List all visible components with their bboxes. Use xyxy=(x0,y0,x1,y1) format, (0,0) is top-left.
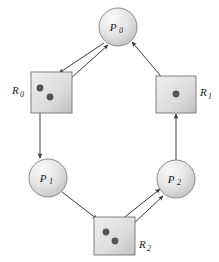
resource-node-r2[interactable]: R 2 xyxy=(94,217,151,255)
process-label-p1-sub: 1 xyxy=(49,177,53,186)
resource-label-r0-sub: 0 xyxy=(20,90,24,99)
resource-instance-dot xyxy=(37,85,44,92)
process-circle-p2 xyxy=(157,160,195,198)
process-circle-p0 xyxy=(99,8,137,46)
process-label-p2: P xyxy=(167,173,175,185)
edge-p1-to-r2 xyxy=(62,192,97,219)
resource-label-r2-sub: 2 xyxy=(147,244,151,253)
diagram-canvas: R 0 R 1 R 2 P 0 xyxy=(0,0,219,262)
resource-label-r0: R xyxy=(11,84,19,96)
resource-instance-dot xyxy=(47,94,54,101)
process-label-p2-sub: 2 xyxy=(177,178,181,187)
resource-node-r0[interactable]: R 0 xyxy=(11,72,72,113)
resource-node-r1[interactable]: R 1 xyxy=(156,76,212,113)
process-label-p0-sub: 0 xyxy=(119,26,123,35)
resource-instance-dot xyxy=(173,91,180,98)
resource-instance-dot xyxy=(103,229,110,236)
process-node-p0[interactable]: P 0 xyxy=(99,8,137,46)
process-label-p1: P xyxy=(39,172,47,184)
resource-box-r0 xyxy=(31,72,72,113)
process-node-p2[interactable]: P 2 xyxy=(157,160,195,198)
process-label-p0: P xyxy=(109,21,117,33)
resource-label-r1-sub: 1 xyxy=(208,92,212,101)
resource-label-r1: R xyxy=(199,86,207,98)
resource-label-r2: R xyxy=(138,238,146,250)
resource-box-r2 xyxy=(94,217,135,255)
process-circle-p1 xyxy=(29,159,67,197)
resource-allocation-graph-figure: R 0 R 1 R 2 P 0 xyxy=(0,0,219,262)
resource-instance-dot xyxy=(112,238,119,245)
process-node-p1[interactable]: P 1 xyxy=(29,159,67,197)
